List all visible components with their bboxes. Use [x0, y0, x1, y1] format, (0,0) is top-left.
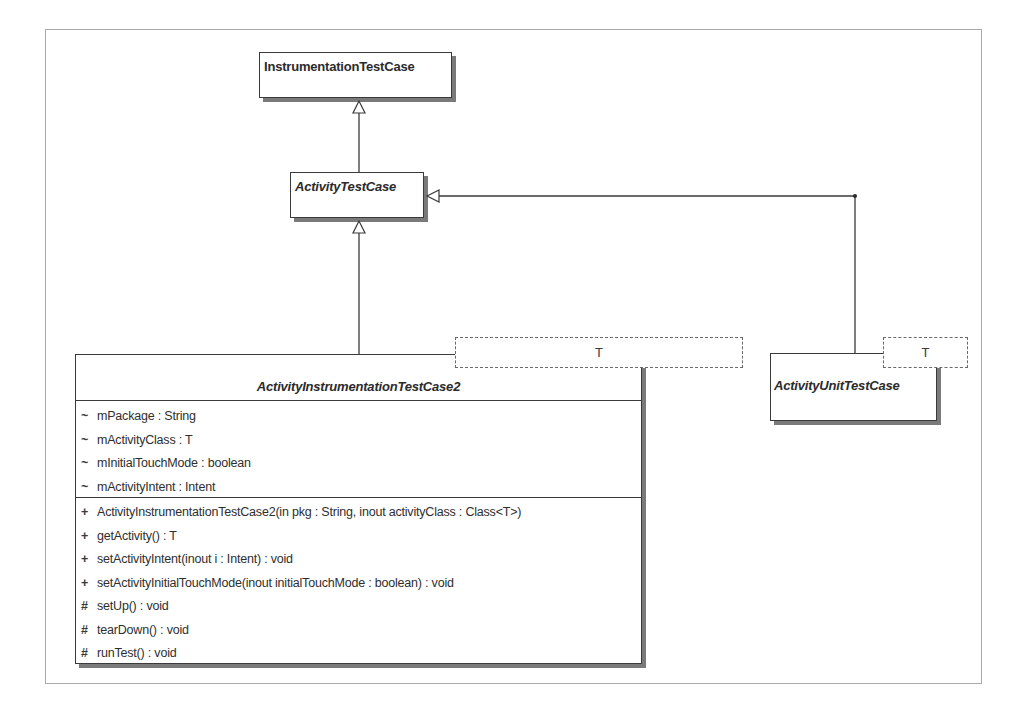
public-visibility-icon: + [81, 548, 97, 572]
package-visibility-icon: ~ [81, 476, 97, 500]
operation-text: tearDown() : void [97, 623, 189, 637]
public-visibility-icon: + [81, 501, 97, 525]
operation-text: setActivityInitialTouchMode(inout initia… [97, 576, 454, 590]
operations-compartment: +ActivityInstrumentationTestCase2(in pkg… [76, 498, 641, 666]
attribute-text: mInitialTouchMode : boolean [97, 456, 251, 470]
template-parameter-box[interactable]: T [455, 337, 743, 368]
attribute-text: mPackage : String [97, 409, 196, 423]
operation-text: setUp() : void [97, 599, 169, 613]
operation-row[interactable]: +setActivityIntent(inout i : Intent) : v… [76, 548, 641, 572]
attribute-row[interactable]: ~mPackage : String [76, 405, 641, 429]
class-activity-test-case[interactable]: ActivityTestCase [290, 172, 424, 218]
operation-row[interactable]: +ActivityInstrumentationTestCase2(in pkg… [76, 501, 641, 525]
operation-text: runTest() : void [97, 646, 176, 660]
attribute-text: mActivityIntent : Intent [97, 480, 215, 494]
operation-row[interactable]: #setUp() : void [76, 595, 641, 619]
template-parameter-label: T [922, 345, 930, 360]
operation-text: getActivity() : T [97, 529, 177, 543]
diagram-canvas: InstrumentationTestCase ActivityTestCase… [0, 0, 1025, 720]
attribute-row[interactable]: ~mActivityIntent : Intent [76, 476, 641, 500]
package-visibility-icon: ~ [81, 405, 97, 429]
protected-visibility-icon: # [81, 595, 97, 619]
class-instrumentation-test-case[interactable]: InstrumentationTestCase [259, 52, 452, 98]
operation-text: ActivityInstrumentationTestCase2(in pkg … [97, 505, 521, 519]
class-name: ActivityInstrumentationTestCase2 [76, 379, 641, 394]
operation-row[interactable]: #tearDown() : void [76, 619, 641, 643]
operation-row[interactable]: +getActivity() : T [76, 525, 641, 549]
attribute-text: mActivityClass : T [97, 433, 193, 447]
operation-text: setActivityIntent(inout i : Intent) : vo… [97, 552, 293, 566]
protected-visibility-icon: # [81, 619, 97, 643]
template-parameter-box[interactable]: T [883, 337, 968, 368]
class-name: ActivityUnitTestCase [774, 378, 900, 393]
class-activity-instrumentation-test-case2[interactable]: ActivityInstrumentationTestCase2 ~mPacka… [75, 354, 642, 664]
operation-row[interactable]: #runTest() : void [76, 642, 641, 666]
template-parameter-label: T [595, 345, 603, 360]
protected-visibility-icon: # [81, 642, 97, 666]
attribute-row[interactable]: ~mInitialTouchMode : boolean [76, 452, 641, 476]
operation-row[interactable]: +setActivityInitialTouchMode(inout initi… [76, 572, 641, 596]
public-visibility-icon: + [81, 572, 97, 596]
class-name: InstrumentationTestCase [264, 59, 414, 74]
class-name: ActivityTestCase [295, 179, 396, 194]
public-visibility-icon: + [81, 525, 97, 549]
package-visibility-icon: ~ [81, 452, 97, 476]
package-visibility-icon: ~ [81, 429, 97, 453]
attributes-compartment: ~mPackage : String ~mActivityClass : T ~… [76, 401, 641, 498]
attribute-row[interactable]: ~mActivityClass : T [76, 429, 641, 453]
